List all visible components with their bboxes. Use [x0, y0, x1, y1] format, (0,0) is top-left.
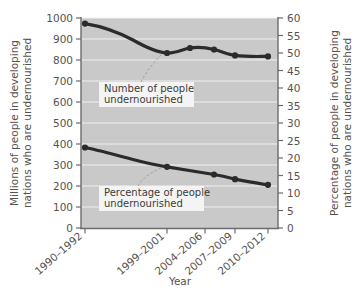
upper-callout-line2: undernourished: [104, 94, 183, 105]
right-tick-label: 0: [287, 222, 294, 234]
right-tick-label: 10: [287, 187, 300, 199]
data-point: [211, 46, 217, 52]
right-tick-label: 50: [287, 47, 300, 59]
left-tick-label: 200: [53, 180, 73, 192]
right-tick-label: 40: [287, 82, 300, 94]
data-point: [265, 53, 271, 59]
left-axis-title-line1: Millions of people in developing: [8, 40, 20, 206]
left-tick-label: 400: [53, 138, 73, 150]
right-tick-label: 30: [287, 117, 300, 129]
data-point: [265, 182, 271, 188]
callout-percentage-undernourished: Percentage of people undernourished: [99, 186, 210, 211]
undernourishment-line-chart: 1000 900 800 700 600 500 400 300 200 100…: [0, 0, 355, 292]
left-tick-label: 500: [53, 117, 73, 129]
data-point: [82, 144, 88, 150]
left-tick-label: 1000: [46, 12, 73, 24]
callout-number-undernourished: Number of people undernourished: [99, 82, 194, 107]
left-axis-tick-labels: 1000 900 800 700 600 500 400 300 200 100…: [46, 12, 73, 234]
lower-callout-line1: Percentage of people: [104, 187, 210, 198]
data-point: [164, 164, 170, 170]
lower-callout-line2: undernourished: [104, 198, 183, 209]
right-axis-title: Percentage of people in developing natio…: [328, 30, 353, 216]
left-tick-label: 600: [53, 96, 73, 108]
data-point: [211, 171, 217, 177]
left-tick-label: 300: [53, 159, 73, 171]
data-point: [232, 52, 238, 58]
right-axis-title-line2: nations who are undernourished: [341, 38, 353, 208]
right-tick-label: 45: [287, 65, 300, 77]
left-tick-label: 900: [53, 33, 73, 45]
right-tick-label: 20: [287, 152, 300, 164]
x-tick-label: 1990–1992: [32, 229, 84, 277]
x-axis-tick-labels: 1990–1992 1999–2001 2004–2006 2007–2009 …: [32, 229, 267, 277]
left-axis-title: Millions of people in developing nations…: [8, 38, 33, 208]
left-tick-label: 800: [53, 54, 73, 66]
data-point: [187, 45, 193, 51]
right-axis-title-line1: Percentage of people in developing: [328, 30, 340, 216]
right-tick-label: 5: [287, 205, 294, 217]
left-tick-label: 100: [53, 201, 73, 213]
data-point: [82, 21, 88, 27]
left-axis-title-line2: nations who are undernourished: [21, 38, 33, 208]
chart-container: 1000 900 800 700 600 500 400 300 200 100…: [0, 0, 355, 292]
left-axis-ticks: [76, 18, 81, 228]
left-tick-label: 700: [53, 75, 73, 87]
data-point: [232, 176, 238, 182]
right-tick-label: 35: [287, 100, 300, 112]
right-axis-tick-labels: 60 55 50 45 40 35 30 25 20 15 10 5 0: [287, 12, 300, 234]
upper-callout-line1: Number of people: [104, 83, 194, 94]
right-axis-ticks: [278, 18, 283, 228]
right-tick-label: 60: [287, 12, 300, 24]
x-axis-title: Year: [168, 275, 192, 287]
right-tick-label: 25: [287, 135, 300, 147]
right-tick-label: 55: [287, 30, 300, 42]
data-point: [164, 50, 170, 56]
x-axis-ticks: [85, 229, 268, 234]
right-tick-label: 15: [287, 170, 300, 182]
